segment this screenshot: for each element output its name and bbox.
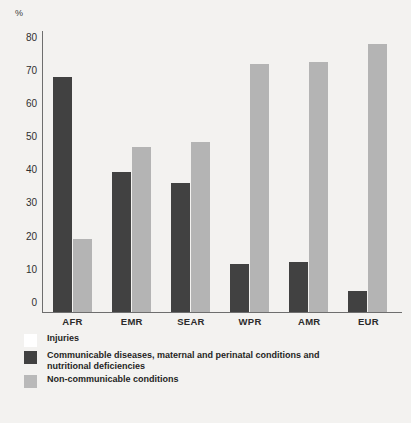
bar-group	[279, 31, 338, 312]
y-tick-label: 70	[13, 64, 37, 75]
legend-label: Injuries	[47, 333, 79, 344]
bar	[230, 264, 249, 312]
legend-swatch	[24, 351, 37, 364]
y-tick-label: 0	[13, 297, 37, 308]
y-tick-label: 20	[13, 230, 37, 241]
legend-label: Non-communicable conditions	[47, 374, 179, 385]
bar	[368, 44, 387, 312]
x-tick-label: SEAR	[161, 316, 220, 327]
x-tick-label: EUR	[339, 316, 398, 327]
bar-group	[102, 31, 161, 312]
bar-group	[161, 31, 220, 312]
bar	[191, 142, 210, 312]
x-axis-labels: AFREMRSEARWPRAMREUR	[43, 316, 398, 327]
bar	[289, 262, 308, 312]
y-axis-unit-label: %	[15, 8, 23, 18]
chart-legend: InjuriesCommunicable diseases, maternal …	[24, 333, 404, 391]
bar-group	[220, 31, 279, 312]
legend-item: Communicable diseases, maternal and peri…	[24, 350, 404, 371]
x-tick-label: AFR	[43, 316, 102, 327]
bar	[171, 183, 190, 312]
legend-swatch	[24, 375, 37, 388]
legend-label: Communicable diseases, maternal and peri…	[47, 350, 320, 371]
bar	[73, 239, 92, 312]
legend-item: Injuries	[24, 333, 404, 347]
x-axis-line	[42, 312, 402, 313]
bar	[309, 62, 328, 312]
bar	[250, 64, 269, 312]
bar-group	[338, 31, 397, 312]
bar-groups	[43, 31, 397, 312]
legend-swatch	[24, 334, 37, 347]
y-tick-label: 50	[13, 131, 37, 142]
bar	[53, 77, 72, 312]
y-tick-label: 10	[13, 263, 37, 274]
bar	[348, 291, 367, 312]
x-tick-label: AMR	[280, 316, 339, 327]
y-tick-label: 80	[13, 31, 37, 42]
chart-figure: % 01020304050607080 AFREMRSEARWPRAMREUR …	[0, 0, 411, 423]
y-tick-label: 40	[13, 164, 37, 175]
bar	[112, 172, 131, 313]
bar	[132, 147, 151, 312]
y-tick-label: 30	[13, 197, 37, 208]
bar-group	[43, 31, 102, 312]
x-tick-label: EMR	[102, 316, 161, 327]
x-tick-label: WPR	[221, 316, 280, 327]
plot-area: 01020304050607080	[42, 31, 397, 313]
y-tick-label: 60	[13, 97, 37, 108]
legend-item: Non-communicable conditions	[24, 374, 404, 388]
